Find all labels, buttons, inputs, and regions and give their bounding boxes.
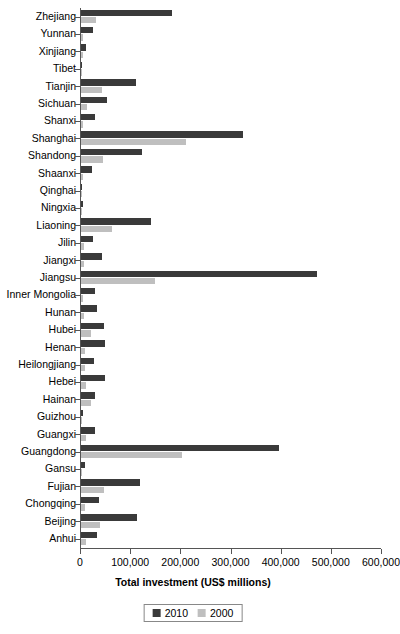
chart-row: Shanghai (0, 130, 386, 147)
category-label-tianjin: Tianjin (0, 78, 76, 95)
bar-2010-guangxi (81, 427, 95, 433)
x-axis-tick (180, 549, 181, 554)
category-label-sichuan: Sichuan (0, 95, 76, 112)
chart-row: Beijing (0, 513, 386, 530)
category-label-shandong: Shandong (0, 147, 76, 164)
bar-2000-shanxi (81, 121, 83, 127)
bar-2010-xinjiang (81, 44, 86, 50)
y-axis-tick (75, 295, 80, 296)
chart-row: Chongqing (0, 495, 386, 512)
category-label-guangdong: Guangdong (0, 443, 76, 460)
legend-label: 2010 (165, 608, 188, 618)
x-axis-tick (130, 549, 131, 554)
category-label-ningxia: Ningxia (0, 199, 76, 216)
bar-2010-inner-mongolia (81, 288, 95, 294)
bar-2010-hubei (81, 323, 104, 329)
bar-2000-inner-mongolia (81, 295, 83, 301)
bar-2000-ningxia (81, 208, 82, 214)
bar-2010-yunnan (81, 27, 93, 33)
chart-row: Liaoning (0, 217, 386, 234)
category-label-fujian: Fujian (0, 478, 76, 495)
bar-2000-yunnan (81, 34, 83, 40)
category-label-gansu: Gansu (0, 460, 76, 477)
bar-2010-beijing (81, 514, 137, 520)
x-axis-title: Total investment (US$ millions) (0, 576, 386, 588)
bar-2000-hebei (81, 382, 86, 388)
category-label-jiangxi: Jiangxi (0, 252, 76, 269)
chart-row: Jiangsu (0, 269, 386, 286)
category-label-shaanxi: Shaanxi (0, 165, 76, 182)
x-axis-tick-label: 400,000 (262, 556, 300, 568)
bar-2000-guangxi (81, 435, 86, 441)
chart-row: Yunnan (0, 25, 386, 42)
y-axis-tick (75, 260, 80, 261)
bar-2000-hainan (81, 400, 91, 406)
chart-row: Jiangxi (0, 252, 386, 269)
bar-2010-shandong (81, 149, 142, 155)
x-axis-tick (231, 549, 232, 554)
bar-2010-qinghai (81, 184, 82, 190)
chart-row: Tibet (0, 60, 386, 77)
bar-2000-jilin (81, 243, 84, 249)
category-label-tibet: Tibet (0, 60, 76, 77)
bar-2010-hainan (81, 392, 95, 398)
bar-2010-ningxia (81, 201, 83, 207)
y-axis-tick (75, 278, 80, 279)
bar-2000-qinghai (81, 191, 82, 197)
chart-row: Hainan (0, 391, 386, 408)
bar-2010-gansu (81, 462, 85, 468)
category-label-liaoning: Liaoning (0, 217, 76, 234)
bar-2000-henan (81, 348, 85, 354)
chart-row: Gansu (0, 460, 386, 477)
chart-row: Anhui (0, 530, 386, 547)
y-axis-tick (75, 69, 80, 70)
bar-2010-shanxi (81, 114, 95, 120)
bar-2010-henan (81, 340, 105, 346)
bar-2010-jiangxi (81, 253, 102, 259)
chart-row: Hunan (0, 304, 386, 321)
bar-2010-tianjin (81, 79, 136, 85)
chart-row: Shandong (0, 147, 386, 164)
y-axis-tick (75, 17, 80, 18)
y-axis-tick (75, 330, 80, 331)
category-label-inner-mongolia: Inner Mongolia (0, 286, 76, 303)
bar-2000-gansu (81, 469, 82, 475)
x-axis-tick-label: 300,000 (212, 556, 250, 568)
legend-item-2000: 2000 (198, 608, 233, 618)
y-axis-tick (75, 208, 80, 209)
bar-2010-anhui (81, 532, 97, 538)
category-label-xinjiang: Xinjiang (0, 43, 76, 60)
bar-2010-fujian (81, 479, 140, 485)
bar-2000-guangdong (81, 452, 182, 458)
bar-2000-jiangsu (81, 278, 155, 284)
bar-2010-liaoning (81, 218, 151, 224)
bar-2010-hunan (81, 305, 97, 311)
legend-swatch-icon (198, 609, 206, 617)
bar-2010-jiangsu (81, 271, 317, 277)
y-axis-tick (75, 452, 80, 453)
bar-2000-xinjiang (81, 52, 83, 58)
y-axis-tick (75, 417, 80, 418)
y-axis-tick (75, 347, 80, 348)
category-label-chongqing: Chongqing (0, 495, 76, 512)
legend-label: 2000 (210, 608, 233, 618)
category-label-hainan: Hainan (0, 391, 76, 408)
bar-2000-tianjin (81, 87, 102, 93)
y-axis-tick (75, 156, 80, 157)
chart-row: Sichuan (0, 95, 386, 112)
bar-2000-sichuan (81, 104, 87, 110)
bar-2010-shanghai (81, 131, 243, 137)
chart-row: Shaanxi (0, 165, 386, 182)
legend-item-2010: 2010 (153, 608, 188, 618)
chart-row: Qinghai (0, 182, 386, 199)
bar-2000-jiangxi (81, 261, 84, 267)
x-axis-tick (281, 549, 282, 554)
x-axis-tick (331, 549, 332, 554)
bar-2000-zhejiang (81, 17, 96, 23)
category-label-heilongjiang: Heilongjiang (0, 356, 76, 373)
y-axis-tick (75, 365, 80, 366)
chart-row: Henan (0, 339, 386, 356)
bar-2000-anhui (81, 539, 86, 545)
bar-2010-guizhou (81, 410, 83, 416)
